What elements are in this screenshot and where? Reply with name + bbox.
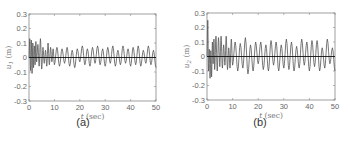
- chart-panel-b: -0.3-0.2-0.100.10.20.301020304050u2 (m)t…: [172, 0, 344, 143]
- x-tick-label: 30: [280, 102, 288, 111]
- caption-a: (a): [63, 116, 103, 128]
- y-tick-label: -0.2: [192, 81, 205, 90]
- caption-b: (b): [240, 116, 280, 128]
- y-tick-label: -0.1: [14, 68, 27, 77]
- x-tick-label: 0: [205, 102, 209, 111]
- y-tick-label: 0: [201, 52, 205, 61]
- y-tick-label: -0.1: [192, 67, 205, 76]
- y-tick-label: 0.1: [17, 39, 27, 48]
- x-tick-label: 40: [305, 102, 313, 111]
- y-tick-label: 0.3: [17, 10, 27, 19]
- x-tick-label: 40: [126, 103, 134, 112]
- chart-panel-a: -0.3-0.2-0.100.10.20.301020304050u1 (m)t…: [0, 0, 172, 143]
- x-tick-label: 10: [228, 102, 236, 111]
- y-axis-label: u2 (m): [182, 45, 192, 69]
- signal-line: [207, 20, 335, 78]
- y-tick-label: -0.3: [14, 97, 27, 106]
- x-tick-label: 50: [331, 102, 339, 111]
- y-tick-label: 0.3: [195, 9, 205, 18]
- y-tick-label: 0.2: [195, 23, 205, 32]
- x-tick-label: 0: [27, 103, 31, 112]
- y-tick-label: 0.1: [195, 38, 205, 47]
- x-tick-label: 50: [152, 103, 160, 112]
- x-tick-label: 10: [50, 103, 58, 112]
- y-tick-label: 0.2: [17, 24, 27, 33]
- signal-line: [29, 39, 156, 74]
- x-tick-label: 30: [101, 103, 109, 112]
- y-axis-label: u1 (m): [4, 46, 14, 70]
- x-tick-label: 20: [254, 102, 262, 111]
- y-tick-label: -0.3: [192, 96, 205, 105]
- y-tick-label: 0: [23, 53, 27, 62]
- x-tick-label: 20: [76, 103, 84, 112]
- y-tick-label: -0.2: [14, 82, 27, 91]
